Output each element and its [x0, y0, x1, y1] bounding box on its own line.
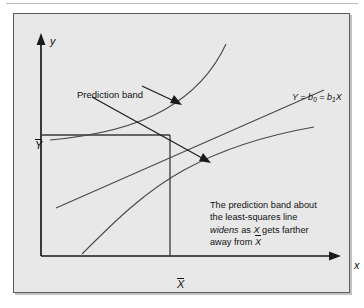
regression-equation-label: Y = b0 = b1X [292, 93, 342, 102]
note-line3-mid: as [239, 225, 254, 235]
mean-guide-lines [41, 135, 170, 256]
equation-b1-subscript: 1 [332, 96, 336, 103]
y-axis-label: y [50, 36, 56, 47]
prediction-band-callout-label: Prediction band [77, 90, 143, 100]
explanatory-note: The prediction band about the least-squa… [210, 199, 317, 249]
plot-canvas [14, 14, 349, 292]
figure-panel: y x Y X Prediction band Y = b0 = b1X The… [13, 13, 350, 293]
figure-root: y x Y X Prediction band Y = b0 = b1X The… [0, 0, 364, 308]
note-line-2: the least-squares line [210, 211, 317, 223]
least-squares-line [56, 90, 324, 208]
equation-eq-1: = [298, 92, 308, 102]
note-line-3: widens as X gets farther [210, 224, 317, 236]
note-line3-post: gets farther [260, 225, 309, 235]
x-mean-tick-label: X [177, 279, 184, 290]
top-divider-rule [6, 3, 358, 4]
x-mean-overbar-text: X [177, 279, 184, 290]
y-mean-overbar-text: Y [35, 140, 42, 151]
x-axis [41, 252, 341, 261]
x-axis-label: x [354, 260, 360, 271]
y-mean-tick-label: Y [35, 140, 42, 151]
note-line-4: away from X [210, 236, 317, 248]
note-line4-pre: away from [210, 237, 255, 247]
equation-x-term: X [336, 92, 342, 102]
note-variable-xbar: X [255, 236, 261, 248]
note-line-1: The prediction band about [210, 199, 317, 211]
equation-b0-subscript: 0 [313, 96, 317, 103]
equation-eq-2: = [317, 92, 327, 102]
note-emphasis-widens: widens [210, 225, 239, 235]
leader-arrow-upper [142, 86, 182, 105]
